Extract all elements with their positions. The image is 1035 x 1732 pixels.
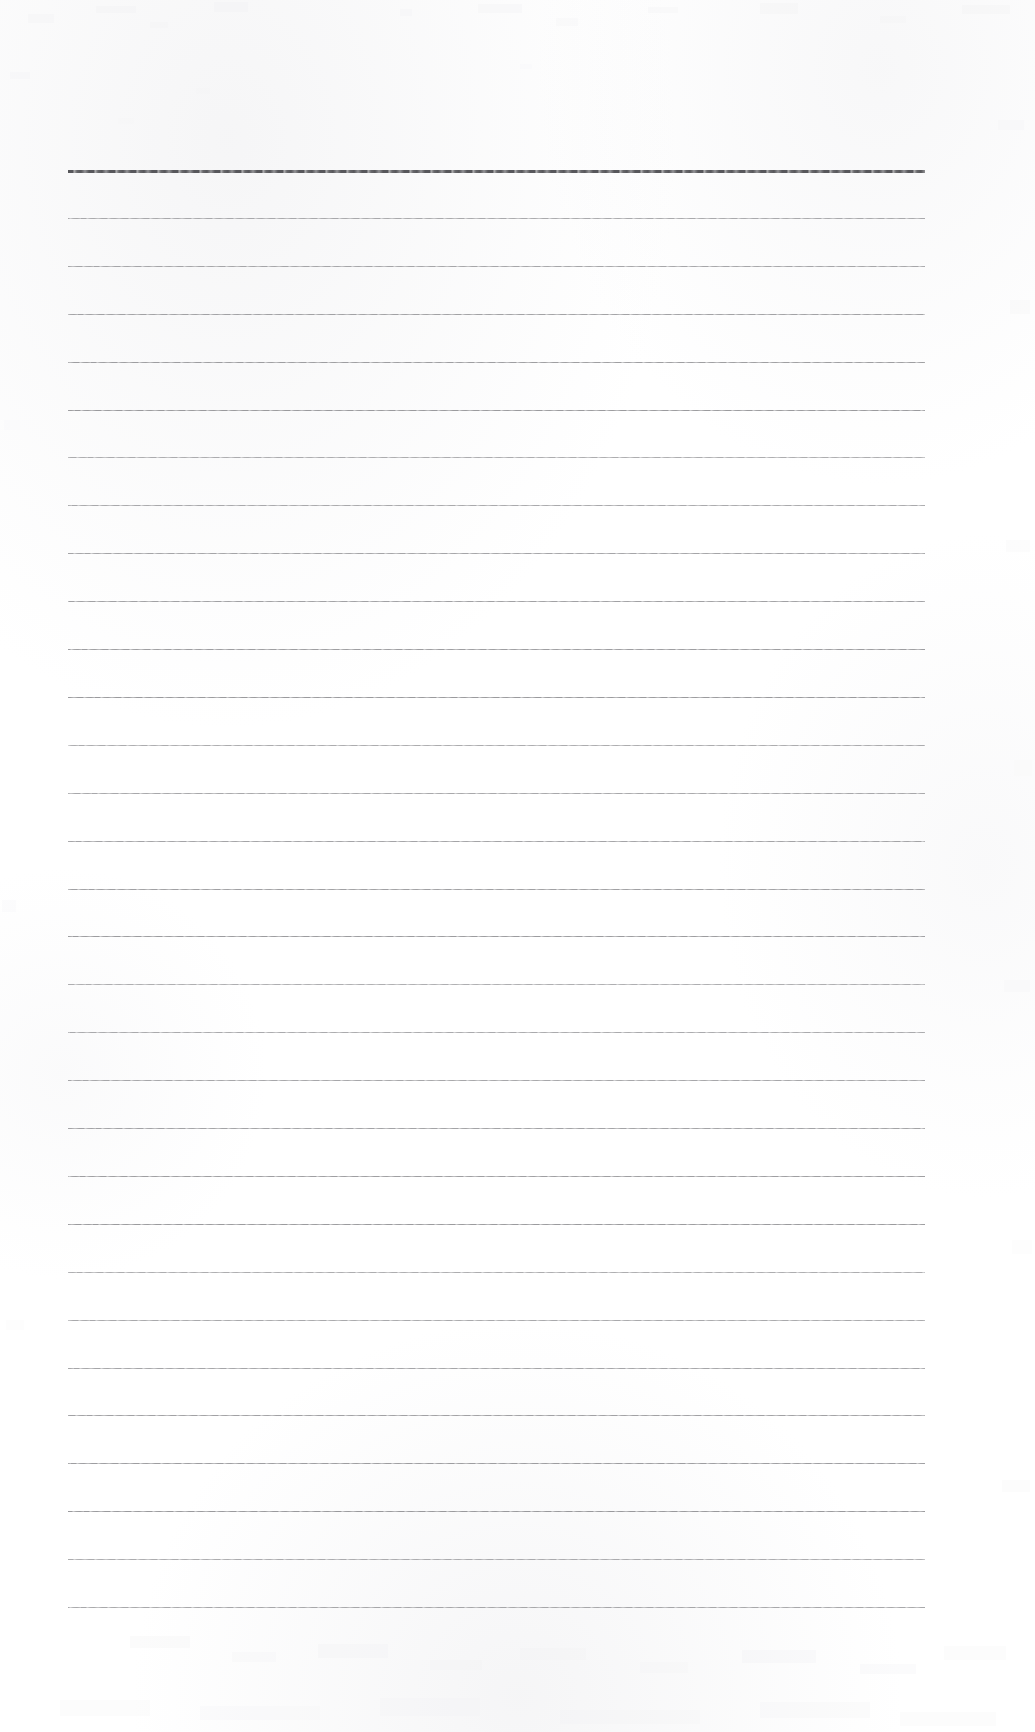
rule-ink-texture — [68, 841, 925, 842]
rule-line — [68, 1176, 925, 1177]
rule-ink-texture — [68, 1272, 925, 1273]
rule-ink-texture — [68, 984, 925, 985]
rule-line — [68, 410, 925, 411]
rule-line — [68, 1080, 925, 1081]
rule-ink-texture — [68, 1080, 925, 1081]
rule-ink-texture — [68, 1511, 925, 1512]
rule-line — [68, 1415, 925, 1416]
rule-line — [68, 266, 925, 267]
rule-line — [68, 1128, 925, 1129]
ruled-lines-layer — [0, 0, 1035, 1732]
scanned-page — [0, 0, 1035, 1732]
rule-ink-texture — [68, 1320, 925, 1321]
rule-line — [68, 1463, 925, 1464]
rule-ink-texture — [68, 1032, 925, 1033]
rule-ink-texture — [68, 1559, 925, 1560]
rule-ink-texture — [68, 1176, 925, 1177]
rule-line — [68, 1368, 925, 1369]
rule-ink-texture — [68, 697, 925, 698]
rule-ink-texture — [68, 314, 925, 315]
rule-line — [68, 697, 925, 698]
rule-line — [68, 1511, 925, 1512]
rule-ink-texture — [68, 553, 925, 554]
rule-ink-texture — [68, 1368, 925, 1369]
rule-line — [68, 218, 925, 219]
rule-ink-texture — [68, 601, 925, 602]
rule-ink-texture — [68, 1128, 925, 1129]
rule-line — [68, 362, 925, 363]
rule-line — [68, 1320, 925, 1321]
rule-line — [68, 505, 925, 506]
rule-ink-texture — [68, 649, 925, 650]
rule-ink-texture — [68, 936, 925, 937]
rule-line — [68, 1559, 925, 1560]
rule-line — [68, 1224, 925, 1225]
rule-line — [68, 936, 925, 937]
rule-line — [68, 841, 925, 842]
rule-ink-texture — [68, 410, 925, 411]
rule-ink-texture — [68, 505, 925, 506]
rule-line — [68, 649, 925, 650]
rule-ink-texture — [68, 1415, 925, 1416]
rule-ink-texture — [68, 218, 925, 219]
rule-line — [68, 889, 925, 890]
rule-line — [68, 314, 925, 315]
rule-ink-texture — [68, 362, 925, 363]
rule-ink-texture — [68, 1607, 925, 1608]
rule-ink-texture — [68, 1463, 925, 1464]
rule-line — [68, 745, 925, 746]
rule-line — [68, 553, 925, 554]
rule-line — [68, 457, 925, 458]
rule-ink-texture — [68, 793, 925, 794]
rule-ink-texture — [68, 170, 925, 173]
rule-line — [68, 1607, 925, 1608]
rule-ink-texture — [68, 1224, 925, 1225]
rule-line — [68, 793, 925, 794]
rule-ink-texture — [68, 745, 925, 746]
rule-line — [68, 1272, 925, 1273]
rule-ink-texture — [68, 889, 925, 890]
header-rule-line — [68, 170, 925, 173]
rule-line — [68, 601, 925, 602]
rule-line — [68, 984, 925, 985]
rule-ink-texture — [68, 457, 925, 458]
rule-line — [68, 1032, 925, 1033]
rule-ink-texture — [68, 266, 925, 267]
